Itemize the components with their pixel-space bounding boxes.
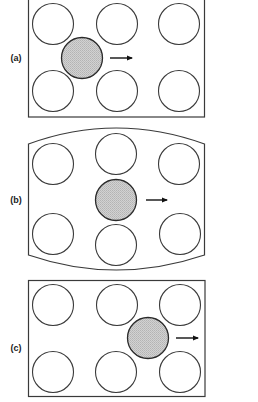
- atom: [33, 71, 74, 112]
- atom: [159, 71, 200, 112]
- atom: [97, 4, 138, 45]
- atom: [160, 214, 201, 255]
- atom: [96, 134, 137, 175]
- shaded-atom: [128, 318, 169, 359]
- shaded-atom: [62, 38, 103, 79]
- shaded-atom: [96, 180, 137, 221]
- panel-label-b: (b): [10, 195, 22, 205]
- panel-a: (a): [11, 0, 205, 117]
- atom: [96, 225, 137, 266]
- atom: [33, 4, 74, 45]
- atom: [33, 214, 74, 255]
- atom: [33, 352, 74, 393]
- atom: [159, 4, 200, 45]
- panel-c: (c): [11, 281, 206, 397]
- atom: [160, 352, 201, 393]
- panel-label-c: (c): [11, 343, 22, 353]
- panel-b: (b): [10, 128, 204, 270]
- atom: [97, 71, 138, 112]
- atom: [96, 352, 137, 393]
- atom: [97, 285, 138, 326]
- diagram-canvas: (a) (b) (c): [0, 0, 258, 402]
- panel-label-a: (a): [11, 53, 22, 63]
- atom: [160, 285, 201, 326]
- atom: [33, 144, 74, 185]
- atom: [159, 144, 200, 185]
- atom: [33, 285, 74, 326]
- open-atoms: [33, 285, 201, 393]
